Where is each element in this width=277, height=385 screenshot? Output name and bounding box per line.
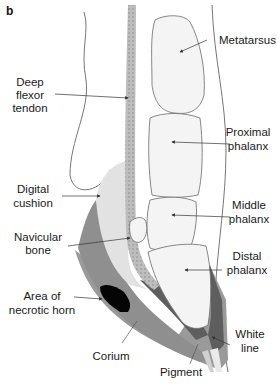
label-deep-flexor-line3: tendon bbox=[8, 102, 52, 115]
label-white-line-line1: White bbox=[230, 328, 270, 341]
label-navicular-line1: Navicular bbox=[10, 231, 66, 244]
label-deep-flexor-line2: flexor bbox=[8, 89, 52, 102]
label-navicular-line2: bone bbox=[10, 244, 66, 257]
label-distal-line1: Distal bbox=[222, 250, 272, 263]
hoof-anatomy-diagram: b bbox=[0, 0, 277, 385]
label-proximal-line1: Proximal bbox=[222, 126, 274, 139]
label-middle-line1: Middle bbox=[225, 199, 273, 212]
label-pigment: Pigment bbox=[156, 366, 206, 379]
leader-deep-flexor bbox=[55, 94, 128, 98]
label-deep-flexor-line1: Deep bbox=[8, 76, 52, 89]
proximal-phalanx bbox=[149, 114, 202, 198]
label-white-line-line2: line bbox=[230, 342, 270, 355]
palmar-skin-outline bbox=[70, 12, 110, 190]
navicular-bone bbox=[130, 218, 147, 243]
label-necrotic-line1: Area of bbox=[4, 290, 80, 303]
label-corium: Corium bbox=[88, 350, 134, 363]
middle-phalanx bbox=[147, 197, 197, 251]
label-digital-line1: Digital bbox=[10, 183, 56, 196]
label-middle-line2: phalanx bbox=[225, 213, 273, 226]
label-necrotic-line2: necrotic horn bbox=[4, 304, 80, 317]
metatarsus bbox=[152, 16, 205, 114]
label-digital-line2: cushion bbox=[10, 197, 56, 210]
label-metatarsus: Metatarsus bbox=[219, 34, 276, 47]
label-proximal-line2: phalanx bbox=[222, 140, 274, 153]
label-distal-line2: phalanx bbox=[222, 264, 272, 277]
